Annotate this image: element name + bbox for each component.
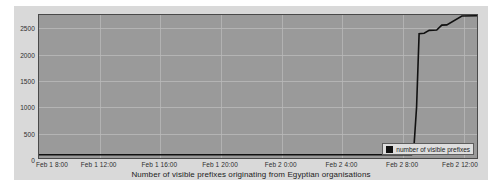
plot-area: number of visible prefixes: [38, 14, 478, 159]
y-axis-tick-label: 1500: [20, 77, 35, 84]
x-axis-title: Number of visible prefixes originating f…: [14, 170, 488, 179]
chart-legend[interactable]: number of visible prefixes: [382, 143, 474, 155]
legend-label: number of visible prefixes: [396, 146, 470, 153]
x-axis-tick-label: Feb 2 0:00: [265, 161, 297, 168]
y-axis-tick-label: 500: [24, 130, 35, 137]
y-axis-tick-label: 0: [31, 157, 35, 164]
series-line-number-of-visible-prefixes: [39, 15, 477, 158]
x-axis-tick-label: Feb 1 12:00: [81, 161, 117, 168]
x-axis-tick-label: Feb 1 20:00: [202, 161, 238, 168]
x-axis-tick-label: Feb 2 4:00: [325, 161, 357, 168]
x-axis-tick-label: Feb 2 12:00: [442, 161, 478, 168]
x-axis-tick-label: Feb 1 8:00: [36, 161, 68, 168]
plot-inner: [39, 15, 477, 158]
x-axis-tick-label: Feb 2 8:00: [386, 161, 418, 168]
x-axis-tick-label: Feb 1 16:00: [141, 161, 177, 168]
y-axis-tick-label: 1000: [20, 104, 35, 111]
y-axis-tick-label: 2500: [20, 25, 35, 32]
legend-swatch-icon: [386, 146, 393, 153]
y-axis-tick-labels: 05001000150020002500: [14, 14, 35, 159]
y-axis-tick-label: 2000: [20, 51, 35, 58]
chart-card: 05001000150020002500 number of visible p…: [14, 6, 488, 180]
